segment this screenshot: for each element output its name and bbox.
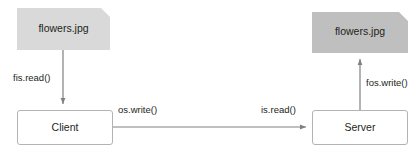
is-read-edge-label: is.read() [261, 104, 296, 115]
source-document-label: flowers.jpg [17, 22, 110, 34]
fos-write-edge-label: fos.write() [366, 77, 408, 88]
fis-read-edge-label: fis.read() [13, 72, 50, 83]
os-write-edge-label: os.write() [118, 104, 157, 115]
diagram-canvas: flowers.jpg flowers.jpg Client Server fi… [0, 0, 418, 154]
destination-document-label: flowers.jpg [312, 25, 408, 37]
client-node-label: Client [17, 121, 113, 133]
server-node-label: Server [312, 121, 408, 133]
